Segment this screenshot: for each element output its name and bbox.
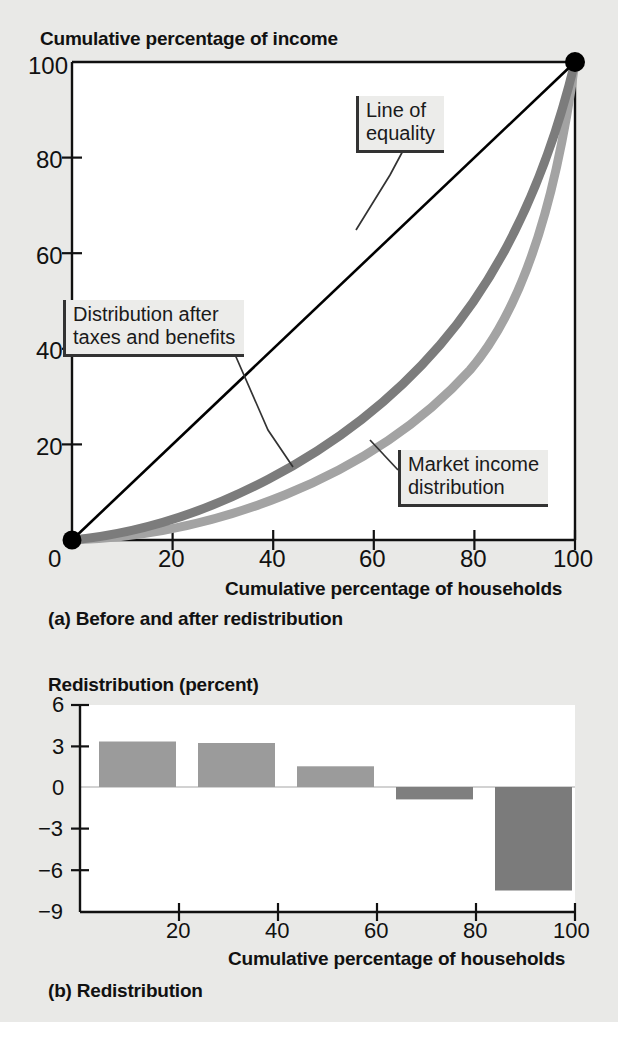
panel-b-x-label-100: 100 — [553, 918, 590, 944]
bar-quintile-3 — [297, 766, 374, 787]
panel-b-y-label-neg6: −6 — [38, 858, 63, 884]
panel-b-y-label-neg3: −3 — [38, 816, 63, 842]
bar-quintile-5 — [495, 787, 572, 891]
panel-b-x-label-80: 80 — [463, 918, 487, 944]
bar-quintile-1 — [99, 742, 176, 788]
bar-quintile-4 — [396, 787, 473, 799]
panel-b-y-label-6: 6 — [52, 692, 64, 718]
panel-b-x-label-40: 40 — [265, 918, 289, 944]
figure-container: Cumulative percentage of income — [0, 0, 618, 1022]
panel-b-y-label-neg9: −9 — [38, 899, 63, 925]
panel-b-x-label-60: 60 — [364, 918, 388, 944]
panel-b-y-label-3: 3 — [52, 734, 64, 760]
bar-quintile-2 — [198, 743, 275, 787]
panel-b-y-label-0: 0 — [52, 775, 64, 801]
panel-b-caption: (b) Redistribution — [48, 980, 203, 1002]
panel-b-x-label-20: 20 — [166, 918, 190, 944]
panel-b-x-axis-title: Cumulative percentage of households — [228, 948, 565, 970]
panel-b-plot — [0, 0, 618, 1022]
